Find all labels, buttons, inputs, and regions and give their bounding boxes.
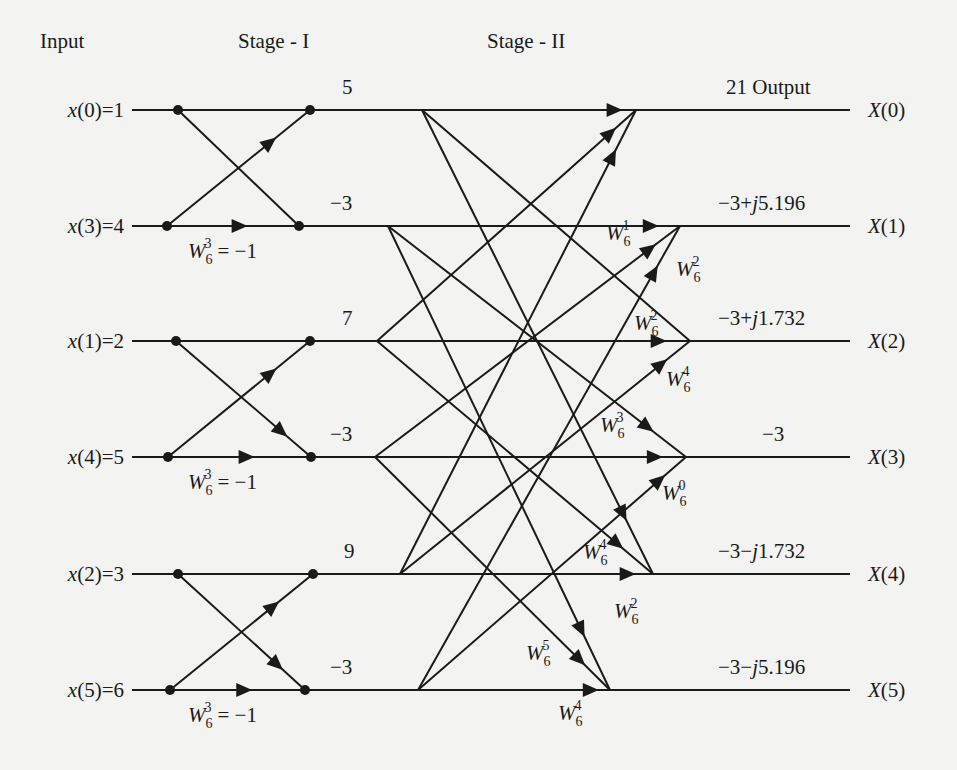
stage2-twiddle-8: W65 xyxy=(526,638,551,669)
stage1-input-node-0 xyxy=(173,105,183,115)
arrow-stage2-straight-5 xyxy=(583,683,599,697)
output-label-5: X(5) xyxy=(867,678,905,702)
input-label-4: x(2)=3 xyxy=(67,562,124,586)
stage1-value-3: −3 xyxy=(330,422,352,446)
output-value-1: −3+j5.196 xyxy=(718,191,805,215)
stage1-value-4: 9 xyxy=(344,539,355,563)
stage1-output-node-3 xyxy=(306,452,316,462)
stage2-twiddle-0: W61 xyxy=(606,218,631,249)
stage1-output-node-1 xyxy=(294,221,304,231)
output-label-1: X(1) xyxy=(867,214,905,238)
output-value-5: −3−j5.196 xyxy=(718,655,805,679)
stage1-output-node-2 xyxy=(305,336,315,346)
stage1-twiddle-1: W63= −1 xyxy=(188,467,257,498)
stage2-twiddle-4: W63 xyxy=(600,410,625,441)
stage1-output-node-4 xyxy=(308,569,318,579)
butterfly-cross-up-1 xyxy=(168,341,310,457)
stage2-twiddle-9: W64 xyxy=(558,698,583,729)
input-label-0: x(0)=1 xyxy=(67,98,124,122)
output-value-3: −3 xyxy=(762,422,784,446)
stage1-input-node-1 xyxy=(162,221,172,231)
input-label-5: x(5)=6 xyxy=(67,678,124,702)
butterfly-cross-down-1 xyxy=(176,341,311,457)
arrow-butterfly-up-2 xyxy=(262,601,279,617)
arrow-butterfly-up-1 xyxy=(260,368,277,384)
arrow-stage2-3-to-1 xyxy=(639,244,656,259)
arrow-stage2-straight-3 xyxy=(647,450,663,464)
stage2-twiddle-1: W62 xyxy=(676,254,701,285)
arrow-stage2-1-to-3 xyxy=(637,417,654,432)
output-label-4: X(4) xyxy=(867,562,905,586)
stage1-output-node-5 xyxy=(300,685,310,695)
arrow-butterfly-twiddle-1 xyxy=(239,450,255,464)
output-label-2: X(2) xyxy=(867,329,905,353)
stage1-twiddle-2: W63= −1 xyxy=(188,700,257,731)
input-label-1: x(3)=4 xyxy=(67,214,125,238)
stage2-twiddle-7: W62 xyxy=(614,596,639,627)
fft-flow-graph: Input Stage - I Stage - II x(0)=1x(3)=4x… xyxy=(0,0,957,770)
butterfly-cross-up-2 xyxy=(170,574,313,690)
stage1-input-node-5 xyxy=(165,685,175,695)
output-value-4: −3−j1.732 xyxy=(718,539,805,563)
stage1-value-2: 7 xyxy=(342,306,353,330)
stage1-value-1: −3 xyxy=(330,191,352,215)
stage2-twiddle-6: W64 xyxy=(583,537,608,568)
stage2-twiddle-2: W62 xyxy=(634,308,659,339)
arrow-stage2-straight-4 xyxy=(620,567,636,581)
input-label-2: x(1)=2 xyxy=(67,329,124,353)
arrow-butterfly-twiddle-2 xyxy=(236,683,252,697)
input-label-3: x(4)=5 xyxy=(67,445,124,469)
arrow-butterfly-twiddle-0 xyxy=(232,219,248,233)
header-stage-2: Stage - II xyxy=(487,29,565,53)
arrow-stage2-4-to-2 xyxy=(650,359,667,374)
stage1-output-node-0 xyxy=(305,105,315,115)
arrow-stage2-5-to-1 xyxy=(644,265,658,282)
stage1-twiddle-0: W63= −1 xyxy=(188,236,257,267)
output-label-0: X(0) xyxy=(867,98,905,122)
stage1-value-0: 5 xyxy=(342,75,353,99)
arrow-stage2-straight-1 xyxy=(643,219,659,233)
output-label-3: X(3) xyxy=(867,445,905,469)
nodes-layer xyxy=(162,105,318,695)
butterfly-cross-up-0 xyxy=(167,110,310,226)
arrow-stage2-straight-0 xyxy=(607,103,623,117)
output-value-0: 21 Output xyxy=(726,75,811,99)
stage1-input-node-2 xyxy=(171,336,181,346)
stage2-twiddle-3: W64 xyxy=(666,364,691,395)
arrow-butterfly-up-0 xyxy=(259,137,276,153)
stage1-value-5: −3 xyxy=(330,655,352,679)
header-stage-1: Stage - I xyxy=(238,29,309,53)
stage1-input-node-3 xyxy=(163,452,173,462)
stage2-twiddle-5: W60 xyxy=(662,478,687,509)
stage1-input-node-4 xyxy=(173,569,183,579)
output-value-2: −3+j1.732 xyxy=(718,306,805,330)
header-input: Input xyxy=(40,29,84,53)
